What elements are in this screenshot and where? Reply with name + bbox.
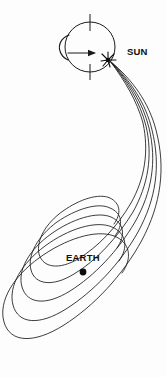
- earth-dot: [80, 269, 87, 276]
- diagram-canvas: SUN EARTH: [0, 0, 167, 377]
- earth-label: EARTH: [66, 252, 100, 263]
- solar-flare-diagram: SUN EARTH: [0, 0, 167, 377]
- sun-label: SUN: [127, 46, 148, 57]
